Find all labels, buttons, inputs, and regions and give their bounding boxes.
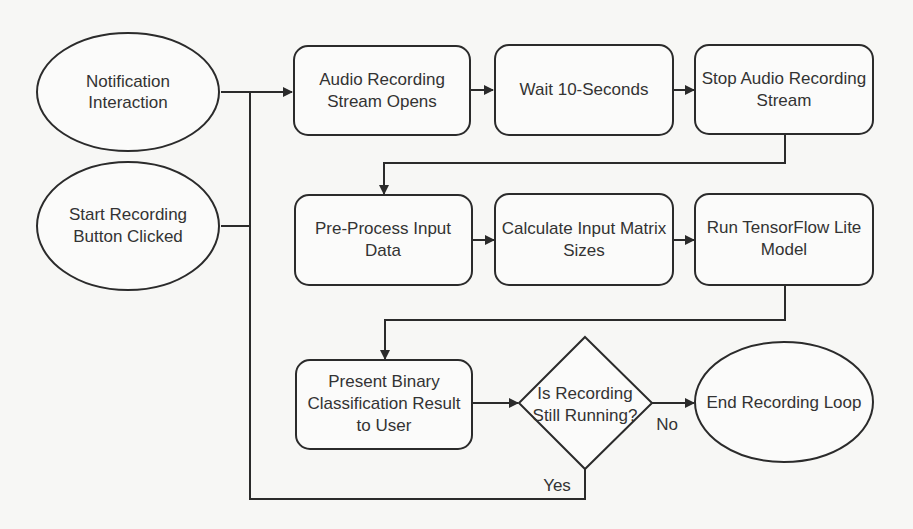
node-calculate-input-matrix-sizes[interactable]: Calculate Input Matrix Sizes [495,194,673,285]
node-pre-process-input-data[interactable]: Pre-Process Input Data [295,195,472,285]
node-label-line: Start Recording [69,205,187,224]
node-label-line: Wait 10-Seconds [520,80,649,99]
node-run-tensorflow-lite-model[interactable]: Run TensorFlow Lite Model [695,194,873,285]
node-stop-audio-recording-stream[interactable]: Stop Audio Recording Stream [695,45,873,134]
node-present-binary-classification-result[interactable]: Present Binary Classification Result to … [296,360,472,449]
edge-decision-yes-loop [250,469,585,499]
edge-audio-stop-to-preprocess [384,135,785,194]
edge-label-yes: Yes [543,476,571,495]
node-label-line: Still Running? [533,406,638,425]
node-label-line: Is Recording [537,384,632,403]
node-label-line: Button Clicked [73,227,183,246]
node-label-line: Present Binary [328,372,440,391]
node-label-line: Classification Result [307,394,460,413]
node-notification-interaction[interactable]: Notification Interaction [37,33,219,151]
node-wait-10-seconds[interactable]: Wait 10-Seconds [495,45,673,135]
node-label-line: Audio Recording [319,70,445,89]
node-label-line: Stream Opens [327,92,437,111]
node-label-line: Run TensorFlow Lite [707,218,862,237]
node-end-recording-loop[interactable]: End Recording Loop [695,342,873,462]
node-decision-is-recording-still-running[interactable]: Is Recording Still Running? [519,337,652,469]
flowchart-canvas: No Yes Notification Interaction Start Re… [0,0,913,529]
node-label-line: Stop Audio Recording [702,69,866,88]
node-label-line: Model [761,240,807,259]
node-start-recording-button-clicked[interactable]: Start Recording Button Clicked [37,162,219,290]
node-label-line: Pre-Process Input [315,219,451,238]
node-label-line: Sizes [563,241,605,260]
node-label-line: Data [365,241,401,260]
node-label-line: Calculate Input Matrix [502,219,667,238]
node-audio-recording-stream-opens[interactable]: Audio Recording Stream Opens [294,46,470,135]
node-label-line: Notification [86,72,170,91]
edge-label-no: No [656,415,678,434]
node-label-line: Stream [757,91,812,110]
node-label-line: End Recording Loop [706,393,861,412]
node-label-line: to User [357,416,412,435]
node-label-line: Interaction [88,93,167,112]
